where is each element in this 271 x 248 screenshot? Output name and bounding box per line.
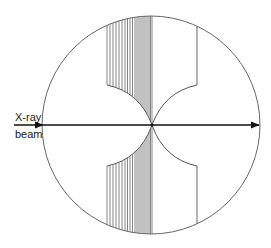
diffraction-diagram bbox=[0, 0, 271, 248]
focal-point bbox=[151, 124, 154, 127]
hatch-lines-bottom bbox=[107, 125, 152, 248]
beam-label-top: X-ray bbox=[15, 111, 41, 123]
curve-bottom-right bbox=[152, 125, 197, 166]
beam-label-bottom: beam bbox=[15, 128, 43, 140]
hatch-lines-top bbox=[107, 0, 152, 125]
curve-top-right bbox=[152, 85, 197, 125]
